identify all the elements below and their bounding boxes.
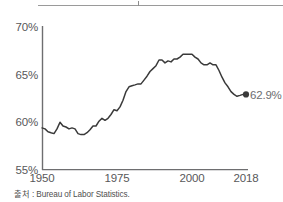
end-point-marker bbox=[243, 91, 249, 97]
y-tick-label-60: 60% bbox=[8, 116, 38, 128]
end-value-label: 62.9% bbox=[250, 89, 282, 101]
y-tick-label-65: 65% bbox=[8, 69, 38, 81]
source-note: 출처 : Bureau of Labor Statistics. bbox=[14, 187, 130, 199]
x-tick-label-1950: 1950 bbox=[22, 172, 62, 184]
x-tick-label-2018: 2018 bbox=[226, 172, 266, 184]
y-tick-label-70: 70% bbox=[8, 21, 38, 33]
x-tick-label-2000: 2000 bbox=[172, 172, 212, 184]
x-tick-label-1975: 1975 bbox=[97, 172, 137, 184]
chart-figure: 70% 65% 60% 55% 1950 1975 2000 2018 62.9… bbox=[0, 0, 283, 202]
series-line bbox=[42, 54, 246, 134]
